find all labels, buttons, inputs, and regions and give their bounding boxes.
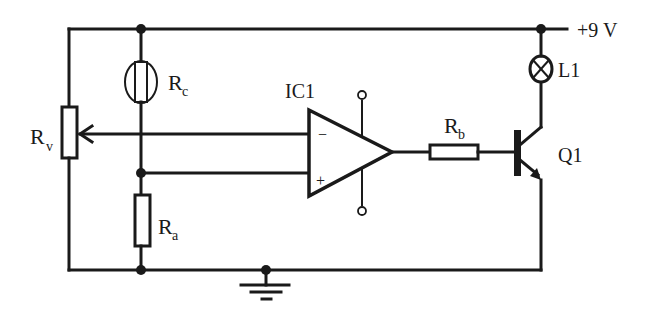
q1-label: Q1 — [558, 144, 582, 166]
noninverting-input-label: + — [316, 172, 325, 189]
svg-text:R: R — [168, 70, 183, 95]
svg-text:R: R — [158, 214, 173, 239]
transistor-q1 — [514, 127, 541, 180]
ldr-rc — [125, 61, 157, 103]
svg-text:R: R — [444, 113, 459, 138]
svg-text:a: a — [172, 228, 179, 243]
terminal-icon — [358, 207, 366, 215]
junction-node — [136, 265, 146, 275]
ic1-label: IC1 — [285, 80, 315, 102]
rv-label: R v — [30, 124, 53, 154]
resistor-ra — [135, 195, 150, 246]
svg-text:c: c — [182, 84, 188, 99]
svg-text:R: R — [30, 124, 45, 149]
lamp-l1 — [530, 56, 552, 82]
ground-icon — [241, 270, 289, 299]
terminal-icon — [358, 91, 366, 99]
svg-text:v: v — [46, 139, 53, 154]
inverting-input-label: − — [318, 126, 327, 143]
potentiometer-rv — [62, 107, 77, 158]
l1-label: L1 — [558, 59, 580, 81]
ra-label: R a — [158, 214, 179, 243]
rc-label: R c — [168, 70, 188, 99]
supply-label: +9 V — [577, 19, 618, 41]
svg-text:b: b — [458, 127, 465, 142]
rb-label: R b — [444, 113, 465, 142]
circuit-diagram: +9 V R v R c R a IC1 − + — [0, 0, 647, 316]
resistor-rb — [430, 145, 478, 159]
